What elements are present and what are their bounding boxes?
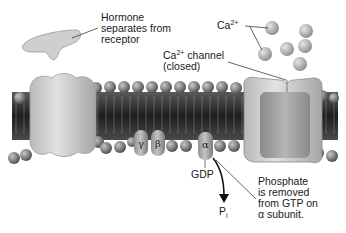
svg-text:γ: γ (138, 138, 144, 149)
phosphate-inorganic-label: Pi (219, 206, 228, 221)
hormone-molecule (22, 30, 80, 60)
hormone-label: Hormone separates from receptor (101, 12, 171, 45)
channel-pointer-line (228, 62, 286, 80)
gdp-label: GDP (191, 169, 214, 180)
svg-text:α: α (202, 139, 209, 150)
receptor-protein (30, 74, 96, 157)
calcium-channel (244, 77, 322, 163)
svg-text:β: β (155, 138, 161, 149)
calcium-ion-label: Ca2+ (217, 20, 238, 31)
calcium-ions (258, 21, 313, 71)
calcium-pointer-lines (245, 26, 268, 50)
arrow-head-icon (219, 194, 229, 203)
phosphate-removed-label: Phosphate is removed from GTP on α subun… (258, 176, 318, 220)
phosphate-arrow (213, 158, 224, 196)
calcium-channel-label: Ca2+ channel (closed) (163, 50, 224, 72)
